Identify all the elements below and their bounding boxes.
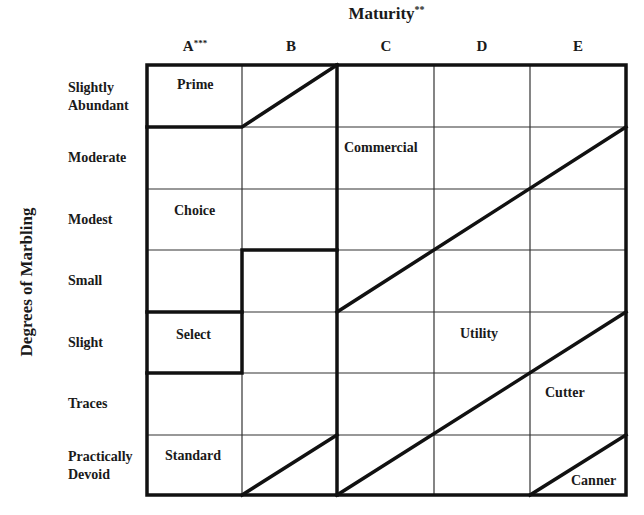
grade-commercial: Commercial [344, 140, 418, 156]
grade-cutter: Cutter [545, 385, 585, 401]
grade-choice: Choice [174, 203, 215, 219]
standard-diagonal [242, 435, 337, 495]
grading-grid [0, 0, 644, 515]
grade-prime: Prime [177, 77, 214, 93]
grade-standard: Standard [165, 448, 221, 464]
grade-canner: Canner [571, 473, 616, 489]
grade-utility: Utility [460, 326, 498, 342]
grade-boundaries [147, 65, 626, 495]
grade-select: Select [176, 327, 211, 343]
